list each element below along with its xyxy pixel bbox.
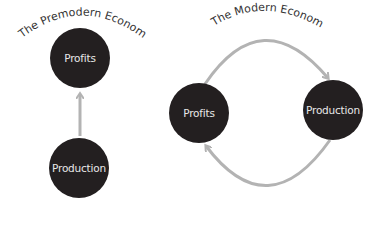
node-label: Production — [52, 162, 106, 174]
modern-arrow-production-to-profits — [206, 140, 330, 186]
modern-profits-node: Profits — [169, 83, 229, 143]
modern-arrow-profits-to-production — [205, 40, 328, 84]
premodern-production-node: Production — [49, 138, 109, 198]
modern-production-node: Production — [303, 80, 363, 140]
node-label: Profits — [64, 52, 95, 64]
node-label: Profits — [183, 107, 214, 119]
premodern-profits-node: Profits — [50, 28, 110, 88]
node-label: Production — [306, 104, 360, 116]
